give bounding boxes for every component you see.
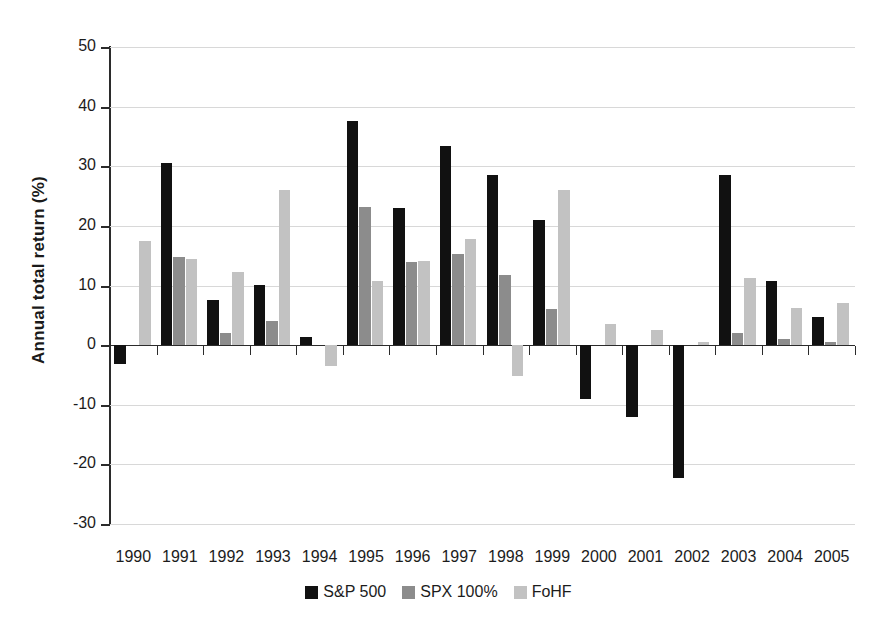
bar [279,190,291,346]
bar-group [296,47,343,524]
bar-group [157,47,204,524]
bar [325,345,337,366]
bar [487,175,499,346]
bar-chart-figure: Annual total return (%) 50403020100-10-2… [0,0,877,622]
bar [359,207,371,345]
x-axis-tick [343,346,344,355]
y-axis-tick-label: 30 [44,156,96,174]
legend-label: SPX 100% [420,583,497,601]
bar-group [250,47,297,524]
x-axis-tick [203,346,204,355]
y-axis-tick [101,107,110,109]
x-axis-tick [622,346,623,355]
bar-group [203,47,250,524]
bar [347,121,359,345]
bar [452,254,464,345]
y-axis-tick-labels: 50403020100-10-20-30 [38,0,96,622]
bar [220,333,232,345]
bar [186,259,198,345]
bar [207,300,219,345]
y-axis-tick [101,464,110,466]
bar [372,281,384,345]
bar [161,163,173,345]
x-axis-tick [250,346,251,355]
x-axis-tick-label: 2005 [805,548,859,566]
y-axis-tick-label: 40 [44,97,96,115]
bar [698,342,710,346]
bar [546,309,558,345]
bar [558,190,570,345]
x-axis-tick [855,346,856,355]
x-axis-tick [157,346,158,355]
x-axis-tick [762,346,763,355]
bar-group [529,47,576,524]
bar [778,339,790,345]
bar [673,345,685,478]
bar [406,262,418,345]
y-axis-tick [101,47,110,49]
y-axis-tick [101,524,110,526]
x-axis-tick [808,346,809,355]
bar-group [110,47,157,524]
bar [266,321,278,345]
x-axis-tick-labels: 1990199119921993199419951996199719981999… [0,548,877,572]
x-axis-tick [669,346,670,355]
gridline [110,524,855,525]
y-axis-tick-label: -10 [44,395,96,413]
bar [173,257,185,345]
bar [719,175,731,345]
legend-item: S&P 500 [305,583,386,601]
bar-group [669,47,716,524]
x-axis-tick [715,346,716,355]
bar [512,345,524,375]
legend-swatch-icon [305,586,318,599]
bar [393,208,405,345]
bar [732,333,744,345]
bar-group [483,47,530,524]
y-axis-tick-label: -20 [44,454,96,472]
y-axis-tick [101,226,110,228]
x-axis-tick [389,346,390,355]
bar-group [808,47,855,524]
y-axis-tick [101,286,110,288]
bar-group [762,47,809,524]
y-axis-tick-label: 0 [44,335,96,353]
bar [651,330,663,345]
bar [533,220,545,345]
bar [499,275,511,345]
bar [766,281,778,345]
bar-group [622,47,669,524]
legend-label: FoHF [532,583,572,601]
bar [626,345,638,417]
legend-item: FoHF [514,583,572,601]
bar [791,308,803,346]
bar-group [436,47,483,524]
x-axis-tick [576,346,577,355]
bar [254,285,266,345]
y-axis-tick-label: -30 [44,514,96,532]
legend-label: S&P 500 [323,583,386,601]
y-axis-tick-label: 20 [44,216,96,234]
bar-group [389,47,436,524]
y-axis-tick [101,166,110,168]
bar-group [343,47,390,524]
bar [580,345,592,399]
y-axis-tick-label: 50 [44,37,96,55]
y-axis-tick-label: 10 [44,276,96,294]
bar [465,239,477,345]
bar [837,303,849,345]
chart-legend: S&P 500SPX 100%FoHF [0,583,877,601]
bar [418,261,430,345]
y-axis-tick [101,405,110,407]
bar [744,278,756,345]
bar [300,337,312,345]
bar-group [715,47,762,524]
x-axis-tick [296,346,297,355]
bar [605,324,617,345]
plot-area [110,47,855,524]
legend-swatch-icon [402,586,415,599]
x-axis-tick [483,346,484,355]
x-axis-tick [436,346,437,355]
bar [812,317,824,346]
bar [232,272,244,345]
